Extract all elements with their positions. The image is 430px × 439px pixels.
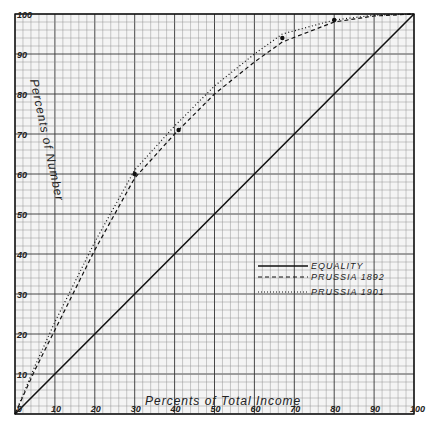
x-tick-label: 90 [370, 404, 380, 414]
x-axis-title: Percents of Total Income [145, 394, 301, 408]
x-tick-label: 80 [330, 404, 340, 414]
y-tick-label: 80 [17, 90, 27, 100]
data-marker [332, 18, 336, 22]
legend: EQUALITY PRUSSIA 1892 PRUSSIA 1901 [255, 260, 405, 308]
x-tick-label: 100 [410, 404, 425, 414]
data-marker [280, 36, 284, 40]
legend-prussia-1901: PRUSSIA 1901 [311, 287, 385, 297]
data-marker [176, 128, 180, 132]
x-tick-label: 0 [17, 404, 22, 414]
y-tick-label: 50 [17, 210, 27, 220]
legend-equality: EQUALITY [311, 261, 364, 271]
y-tick-label: 40 [16, 250, 27, 260]
y-tick-label: 60 [17, 170, 27, 180]
x-tick-label: 10 [51, 404, 61, 414]
x-tick-label: 30 [131, 404, 141, 414]
y-tick-label: 70 [17, 130, 27, 140]
data-marker [133, 172, 137, 176]
y-tick-label: 10 [17, 370, 27, 380]
y-tick-label: 100 [17, 10, 32, 20]
x-tick-label: 20 [90, 404, 101, 414]
legend-prussia-1892: PRUSSIA 1892 [311, 272, 385, 282]
y-tick-label: 30 [17, 290, 27, 300]
lorenz-chart: 0102030405060708090100102030405060708090… [0, 0, 430, 439]
y-tick-label: 20 [16, 330, 27, 340]
y-tick-label: 90 [17, 50, 27, 60]
